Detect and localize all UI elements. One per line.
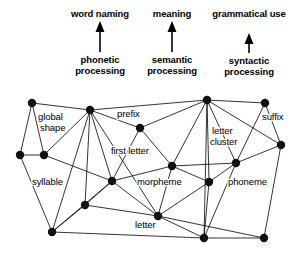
bottom-left-node bbox=[48, 228, 56, 236]
network-node-label: syllable bbox=[32, 176, 63, 187]
left-edge-node bbox=[16, 151, 24, 159]
network-node-label: shape bbox=[40, 122, 65, 133]
network-edge bbox=[172, 100, 207, 166]
network-edge bbox=[52, 205, 85, 232]
global-shape-upper-node bbox=[28, 99, 36, 107]
network-node-label: phoneme bbox=[228, 176, 267, 187]
right-edge-node bbox=[277, 141, 285, 149]
network-node-label: suffix bbox=[262, 111, 284, 122]
network-node-label: first letter bbox=[111, 145, 149, 156]
network-edge bbox=[90, 100, 207, 110]
network-node-label: letter bbox=[135, 219, 156, 230]
network-edge bbox=[90, 110, 158, 216]
network-edge bbox=[85, 205, 158, 216]
letter-node bbox=[154, 212, 162, 220]
morpheme-node bbox=[108, 177, 116, 185]
suffix-node bbox=[261, 99, 269, 107]
bottom-right-node bbox=[260, 234, 268, 242]
network-edge bbox=[32, 103, 90, 110]
syllable-mid-node bbox=[81, 201, 89, 209]
network-edge bbox=[207, 100, 209, 182]
figure-canvas: word naming phonetic processing meaning … bbox=[0, 0, 302, 253]
network-edge bbox=[90, 110, 112, 181]
bottom-mid-node bbox=[200, 234, 208, 242]
first-letter-lower-node bbox=[168, 162, 176, 170]
network-edge bbox=[158, 216, 264, 238]
network-node-label: cluster bbox=[210, 136, 237, 147]
network-edge bbox=[158, 216, 204, 238]
network-node-label: letter bbox=[212, 125, 233, 136]
network-labels: globalglobalshapeshapeprefixprefixsuffix… bbox=[32, 108, 284, 230]
network-edge bbox=[52, 232, 204, 238]
network-edge bbox=[207, 100, 265, 103]
network-node-label: prefix bbox=[117, 108, 140, 119]
top-right-hub-node bbox=[203, 96, 211, 104]
syllable-upper-node bbox=[40, 151, 48, 159]
global-shape-hub-node bbox=[86, 106, 94, 114]
lexical-network-graph: globalglobalshapeshapeprefixprefixsuffix… bbox=[0, 0, 302, 253]
network-edge bbox=[265, 103, 281, 145]
prefix-node bbox=[136, 124, 144, 132]
letter-cluster-node bbox=[232, 159, 240, 167]
network-edge bbox=[264, 145, 281, 238]
network-node-label: morpheme bbox=[137, 176, 182, 187]
network-edge bbox=[140, 100, 207, 128]
network-edge bbox=[20, 155, 52, 232]
network-edge bbox=[236, 145, 281, 163]
network-edge bbox=[172, 163, 236, 166]
network-node-label: global bbox=[38, 111, 63, 122]
network-edge bbox=[20, 103, 32, 155]
phoneme-upper-node bbox=[205, 178, 213, 186]
network-edge bbox=[158, 182, 209, 216]
